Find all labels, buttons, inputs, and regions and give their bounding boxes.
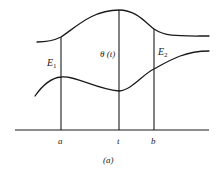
tick-label-b: b [151, 136, 156, 146]
tick-label-a: a [58, 136, 63, 146]
figure-caption: (a) [103, 155, 114, 165]
tick-label-t: t [117, 136, 120, 146]
label-e2: E2 [157, 46, 168, 59]
label-e1: E1 [46, 57, 57, 70]
label-theta-t: θ (t) [100, 49, 115, 59]
region-diagram: E1 θ (t) E2 a t b (a) [0, 0, 219, 180]
upper-curve [37, 10, 209, 42]
